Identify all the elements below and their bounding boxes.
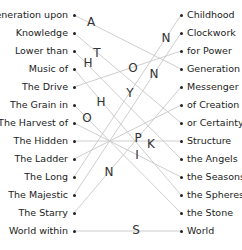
- left-dot[interactable]: [73, 104, 76, 107]
- right-item: the Seasons: [187, 171, 242, 183]
- left-item: The Harvest of: [0, 117, 68, 129]
- left-dot[interactable]: [73, 86, 76, 89]
- right-dot[interactable]: [180, 194, 183, 197]
- connection-line: [74, 87, 181, 213]
- right-dot[interactable]: [180, 158, 183, 161]
- line-letter: O: [82, 112, 91, 124]
- left-item: Generation upon: [0, 9, 68, 21]
- right-dot[interactable]: [180, 14, 183, 17]
- line-letter: K: [147, 138, 155, 150]
- left-dot[interactable]: [73, 212, 76, 215]
- line-letter: N: [162, 32, 171, 44]
- right-dot[interactable]: [180, 104, 183, 107]
- left-dot[interactable]: [73, 50, 76, 53]
- left-item: The Starry: [18, 207, 68, 219]
- right-dot[interactable]: [180, 212, 183, 215]
- left-item: World within: [9, 225, 68, 237]
- line-letter: N: [150, 68, 159, 80]
- line-letter: O: [128, 62, 137, 74]
- right-item: the Stone: [187, 207, 233, 219]
- left-dot[interactable]: [73, 176, 76, 179]
- right-item: Childhood: [187, 9, 235, 21]
- left-item: Music of: [29, 63, 68, 75]
- left-dot[interactable]: [73, 140, 76, 143]
- right-item: Generation: [187, 63, 240, 75]
- right-item: World: [187, 225, 214, 237]
- right-dot[interactable]: [180, 230, 183, 233]
- line-letter: P: [134, 132, 141, 144]
- right-dot[interactable]: [180, 122, 183, 125]
- line-letter: H: [96, 96, 105, 108]
- right-dot[interactable]: [180, 50, 183, 53]
- right-dot[interactable]: [180, 68, 183, 71]
- left-item: The Grain in: [10, 99, 68, 111]
- left-dot[interactable]: [73, 32, 76, 35]
- right-item: Messenger: [187, 81, 239, 93]
- right-dot[interactable]: [180, 32, 183, 35]
- left-item: The Hidden: [14, 135, 68, 147]
- right-dot[interactable]: [180, 140, 183, 143]
- right-item: the Angels: [187, 153, 238, 165]
- right-item: the Spheres: [187, 189, 242, 201]
- right-dot[interactable]: [180, 176, 183, 179]
- line-letter: N: [105, 166, 114, 178]
- left-item: The Drive: [22, 81, 68, 93]
- right-item: Structure: [187, 135, 231, 147]
- left-dot[interactable]: [73, 122, 76, 125]
- left-dot[interactable]: [73, 14, 76, 17]
- left-item: The Ladder: [14, 153, 68, 165]
- left-dot[interactable]: [73, 68, 76, 71]
- right-dot[interactable]: [180, 86, 183, 89]
- left-dot[interactable]: [73, 158, 76, 161]
- right-item: Clockwork: [187, 27, 236, 39]
- right-item: or Certainty: [187, 117, 242, 129]
- line-letter: S: [132, 224, 140, 236]
- line-letter: T: [93, 47, 100, 59]
- connection-line: [74, 33, 181, 123]
- line-letter: A: [87, 16, 95, 28]
- line-letter: I: [135, 149, 139, 161]
- left-dot[interactable]: [73, 194, 76, 197]
- left-item: Knowledge: [16, 27, 68, 39]
- left-dot[interactable]: [73, 230, 76, 233]
- left-item: The Majestic: [8, 189, 68, 201]
- right-item: for Power: [187, 45, 232, 57]
- line-letter: H: [83, 57, 92, 69]
- line-letter: Y: [126, 87, 133, 99]
- left-item: The Long: [24, 171, 68, 183]
- left-item: Lower than: [15, 45, 68, 57]
- right-item: of Creation: [187, 99, 239, 111]
